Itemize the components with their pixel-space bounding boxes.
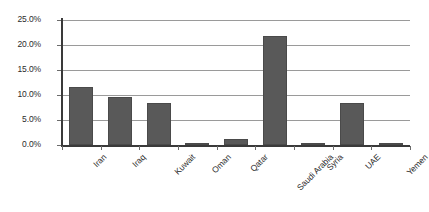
x-axis-tick-mark <box>62 146 63 150</box>
x-axis-tick-mark <box>255 146 256 150</box>
x-axis-tick-mark <box>139 146 140 150</box>
x-axis-label-oman: Oman <box>210 152 233 175</box>
x-axis-tick-mark <box>410 146 411 150</box>
x-axis-tick-mark <box>101 146 102 150</box>
x-axis-label-saudi-arabia: Saudi Arabia <box>294 152 334 192</box>
y-axis-tick-mark <box>57 70 61 71</box>
y-axis-tick-mark <box>57 95 61 96</box>
x-axis-label-kuwait: Kuwait <box>172 152 197 177</box>
y-axis-tick-mark <box>57 45 61 46</box>
x-axis-label-uae: UAE <box>363 152 382 171</box>
x-axis-tick-mark <box>217 146 218 150</box>
y-axis-tick-mark <box>57 145 61 146</box>
x-axis-tick-mark <box>333 146 334 150</box>
x-axis-tick-mark <box>371 146 372 150</box>
y-axis-tick-mark <box>57 20 61 21</box>
x-axis-label-qatar: Qatar <box>248 152 270 174</box>
x-axis-label-iraq: Iraq <box>130 152 147 169</box>
x-axis-tick-mark <box>178 146 179 150</box>
x-axis-label-yemen: Yemen <box>404 152 429 177</box>
y-axis-tick-mark <box>57 120 61 121</box>
x-axis-tick-mark <box>294 146 295 150</box>
x-axis-label-iran: Iran <box>92 152 109 169</box>
